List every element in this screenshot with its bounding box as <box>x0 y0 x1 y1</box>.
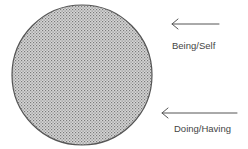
being-self-label: Being/Self <box>172 41 215 51</box>
central-circle <box>12 5 152 145</box>
arrow-doing-having <box>162 108 237 118</box>
doing-having-label: Doing/Having <box>174 124 231 134</box>
arrow-being-self <box>172 19 219 29</box>
